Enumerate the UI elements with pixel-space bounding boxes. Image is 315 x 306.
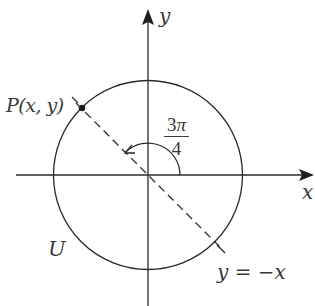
point-p-marker (79, 105, 86, 112)
point-p-label: P(x, y) (6, 96, 64, 115)
angle-denominator: 4 (164, 137, 189, 158)
line-equation-label: y = −x (217, 262, 286, 282)
angle-numerator: 3π (164, 115, 189, 137)
y-axis-label: y (159, 6, 170, 26)
angle-label: 3π 4 (164, 115, 189, 158)
line-y-equals-neg-x (76, 103, 222, 249)
line-end-tick-top (72, 97, 78, 103)
x-axis-label: x (302, 182, 313, 202)
line-end-tick-bottom (217, 245, 225, 253)
circle-u-label: U (48, 239, 66, 260)
unit-circle-diagram: y x P(x, y) U y = −x 3π 4 (0, 0, 315, 306)
